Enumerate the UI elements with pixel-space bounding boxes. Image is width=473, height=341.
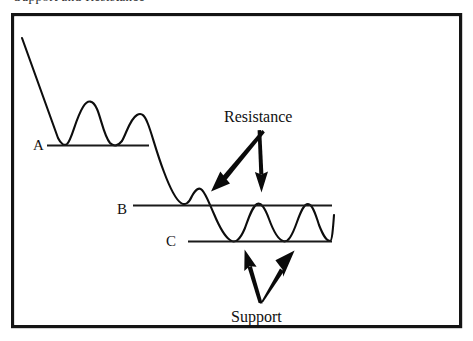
canvas-background [0, 0, 473, 341]
level-label-a: A [33, 137, 44, 153]
support-label: Support [231, 308, 282, 326]
support-resistance-figure: Support and Resistance A B C Resistance [0, 0, 473, 341]
level-label-c: C [166, 233, 176, 249]
figure-caption-clipped: Support and Resistance [14, 0, 145, 5]
diagram-canvas: A B C Resistance Support [0, 0, 473, 341]
resistance-label: Resistance [224, 108, 292, 125]
level-label-b: B [117, 201, 127, 217]
